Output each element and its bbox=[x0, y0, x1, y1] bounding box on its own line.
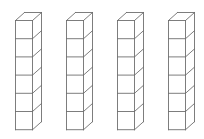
side-diagonal bbox=[33, 104, 42, 112]
top-face-edge bbox=[33, 13, 42, 21]
top-face-edge bbox=[67, 13, 76, 21]
top-face-edge bbox=[169, 13, 178, 21]
cube-towers-diagram bbox=[0, 0, 204, 139]
side-diagonal bbox=[135, 122, 144, 130]
top-face-edge bbox=[118, 13, 127, 21]
side-diagonal bbox=[33, 85, 42, 93]
top-face-edge bbox=[84, 13, 93, 21]
side-diagonal bbox=[186, 85, 195, 93]
side-diagonal bbox=[135, 67, 144, 75]
top-face-edge bbox=[186, 13, 195, 21]
side-diagonal bbox=[84, 85, 93, 93]
cube-tower-1 bbox=[16, 13, 42, 130]
side-diagonal bbox=[33, 31, 42, 39]
top-face-edge bbox=[135, 13, 144, 21]
top-face-edge bbox=[16, 13, 25, 21]
side-diagonal bbox=[33, 49, 42, 57]
cube-towers-figure bbox=[0, 0, 204, 139]
side-diagonal bbox=[84, 31, 93, 39]
side-diagonal bbox=[186, 49, 195, 57]
side-diagonal bbox=[186, 104, 195, 112]
cube-tower-2 bbox=[67, 13, 93, 130]
side-diagonal bbox=[135, 49, 144, 57]
side-diagonal bbox=[135, 31, 144, 39]
side-diagonal bbox=[186, 67, 195, 75]
side-diagonal bbox=[84, 104, 93, 112]
cube-tower-3 bbox=[118, 13, 144, 130]
cube-tower-4 bbox=[169, 13, 195, 130]
side-diagonal bbox=[186, 31, 195, 39]
side-diagonal bbox=[84, 122, 93, 130]
side-diagonal bbox=[33, 67, 42, 75]
side-diagonal bbox=[135, 104, 144, 112]
side-diagonal bbox=[186, 122, 195, 130]
side-diagonal bbox=[84, 67, 93, 75]
side-diagonal bbox=[33, 122, 42, 130]
side-diagonal bbox=[135, 85, 144, 93]
side-diagonal bbox=[84, 49, 93, 57]
